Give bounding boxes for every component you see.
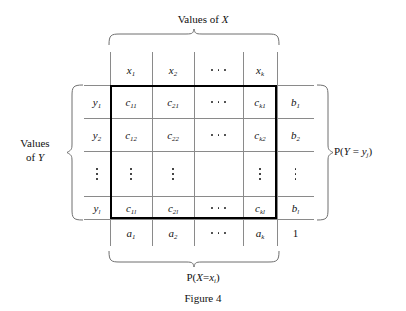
table-cell-ckl: ckl [243, 197, 277, 219]
right-brace [316, 84, 334, 221]
table-cell-col1-ellipsis-icon [110, 152, 152, 196]
table-cell-rowl-ellipsis-icon [194, 197, 243, 219]
values-of-x-text: Values of [178, 13, 222, 25]
column-header-xk: xk [243, 56, 277, 84]
table-cell-c2l: c2l [152, 197, 194, 219]
column-header-x1: x1 [110, 56, 152, 84]
bottom-brace [108, 250, 280, 268]
column-marginal-label: P(X=xi) [0, 272, 406, 283]
table-cell-c11: c11 [110, 86, 152, 118]
column-margin-a1: a1 [110, 220, 152, 246]
figure-4-joint-distribution-table: Values of X Values of Y P(Y = yj) P(X=xi… [0, 0, 406, 311]
table-cell-colk-ellipsis-icon [243, 152, 277, 196]
table-cell-c1l: c1l [110, 197, 152, 219]
table-cell-c21: c21 [152, 86, 194, 118]
values-of-y-line1: Values [20, 137, 49, 149]
column-header-ellipsis-icon [194, 56, 243, 84]
table-cell-ck2: ck2 [243, 119, 277, 151]
grand-total-cell: 1 [277, 220, 314, 246]
row-marginal-label: P(Y = yj) [334, 146, 372, 157]
row-header-y2: y2 [84, 119, 110, 151]
table-cell-c22: c22 [152, 119, 194, 151]
row-header-ellipsis-icon [84, 152, 110, 196]
column-header-x2: x2 [152, 56, 194, 84]
figure-caption: Figure 4 [0, 293, 406, 304]
column-margin-a2: a2 [152, 220, 194, 246]
variable-y: Y [38, 151, 44, 163]
row-margin-bl: bl [277, 197, 314, 219]
row-margin-ellipsis-icon [277, 152, 314, 196]
values-of-y-label: Values of Y [6, 137, 64, 165]
row-margin-b2: b2 [277, 119, 314, 151]
table-cell-c12: c12 [110, 119, 152, 151]
top-brace [108, 28, 280, 46]
row-header-y1: y1 [84, 86, 110, 118]
left-brace [66, 84, 84, 221]
variable-x: X [222, 13, 229, 25]
table-cell-col2-ellipsis-icon [152, 152, 194, 196]
values-of-x-label: Values of X [0, 14, 406, 25]
table-cell-row1-ellipsis-icon [194, 86, 243, 118]
column-margin-ellipsis-icon [194, 220, 243, 246]
row-margin-b1: b1 [277, 86, 314, 118]
values-of-y-line2: of [26, 151, 38, 163]
row-header-yl: yl [84, 197, 110, 219]
table-cell-ck1: ck1 [243, 86, 277, 118]
column-margin-ak: ak [243, 220, 277, 246]
table-cell-row2-ellipsis-icon [194, 119, 243, 151]
